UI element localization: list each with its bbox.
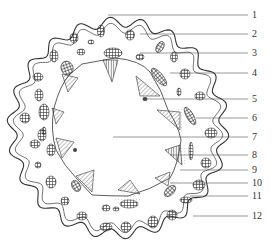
callout-label-7: 7 [252, 132, 257, 142]
callout-label-8: 8 [252, 150, 257, 160]
callout-label-2: 2 [252, 29, 257, 39]
callout-label-1: 1 [252, 10, 257, 20]
stem-cross-section-diagram [0, 0, 273, 251]
callout-label-4: 4 [252, 68, 257, 78]
callout-label-11: 11 [252, 191, 262, 201]
callout-label-3: 3 [252, 48, 257, 58]
callout-label-10: 10 [252, 178, 262, 188]
callout-label-9: 9 [252, 165, 257, 175]
callout-label-6: 6 [252, 113, 257, 123]
callout-label-12: 12 [252, 211, 262, 221]
callout-label-5: 5 [252, 94, 257, 104]
